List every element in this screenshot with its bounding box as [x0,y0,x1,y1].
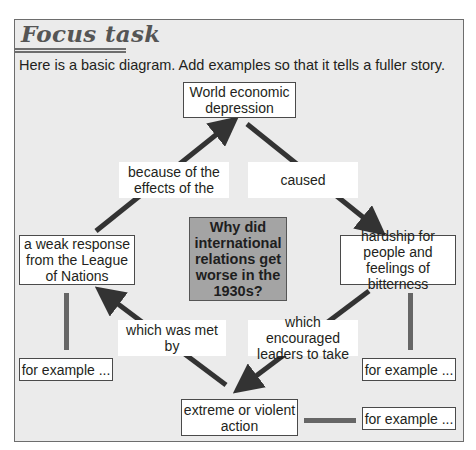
example-box-bottom[interactable]: for example ... [362,407,456,430]
node-world-economic-depression: World economic depression [183,82,296,118]
connector-label-bottom-to-left: which was met by [118,320,226,356]
node-hardship: hardship for people and feelings of bitt… [340,235,456,285]
node-extreme-action: extreme or violent action [181,399,298,436]
node-weak-league-response: a weak response from the League of Natio… [19,235,135,285]
connector-label-right-to-bottom: which encouraged leaders to take [248,320,358,356]
central-question-box: Why did international relations get wors… [189,217,287,301]
link-bar-right [408,293,413,350]
link-bar-left [64,293,69,350]
connector-label-top-to-right: caused [248,162,358,198]
connector-label-left-to-top: because of the effects of the [119,162,229,198]
example-box-right[interactable]: for example ... [362,358,456,381]
example-box-left[interactable]: for example ... [19,358,113,381]
link-bar-bottom [304,418,356,423]
